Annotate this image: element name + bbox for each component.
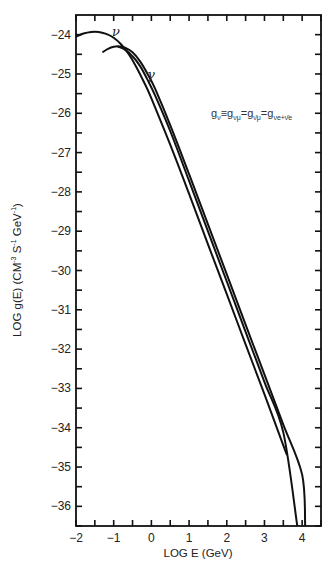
nu-curve-label: ν bbox=[112, 24, 120, 39]
y-tick-label: −34 bbox=[51, 421, 72, 435]
x-tick-label: 0 bbox=[148, 531, 155, 545]
x-tick-label: 2 bbox=[223, 531, 230, 545]
y-axis-title: LOG g(E) (CM-3 S-1 GeV-1) bbox=[10, 203, 23, 337]
x-tick-label: 3 bbox=[261, 531, 268, 545]
y-tick-label: −27 bbox=[51, 146, 72, 160]
y-tick-label: −30 bbox=[51, 264, 72, 278]
y-tick-label: −26 bbox=[51, 106, 72, 120]
gamma-curve-label: γ bbox=[147, 67, 155, 82]
axis-tick-labels: −2−101234−24−25−26−27−28−29−30−31−32−33−… bbox=[51, 28, 306, 545]
data-curves bbox=[76, 32, 305, 526]
y-tick-label: −25 bbox=[51, 67, 72, 81]
x-axis-title: LOG E (GeV) bbox=[163, 547, 232, 559]
x-tick-label: −1 bbox=[107, 531, 121, 545]
curve-series-0 bbox=[76, 32, 287, 456]
chart: −2−101234−24−25−26−27−28−29−30−31−32−33−… bbox=[0, 0, 334, 563]
y-tick-label: −35 bbox=[51, 460, 72, 474]
y-tick-label: −31 bbox=[51, 303, 72, 317]
y-tick-label: −29 bbox=[51, 224, 72, 238]
equation-annotation: gν≡gνμ=gν̄μ=gνe+ν̄e bbox=[211, 107, 292, 122]
y-tick-label: −24 bbox=[51, 28, 72, 42]
y-tick-label: −33 bbox=[51, 381, 72, 395]
y-tick-label: −36 bbox=[51, 499, 72, 513]
y-tick-label: −32 bbox=[51, 342, 72, 356]
x-tick-label: 1 bbox=[186, 531, 193, 545]
x-tick-label: 4 bbox=[299, 531, 306, 545]
y-tick-label: −28 bbox=[51, 185, 72, 199]
x-tick-label: −2 bbox=[69, 531, 83, 545]
